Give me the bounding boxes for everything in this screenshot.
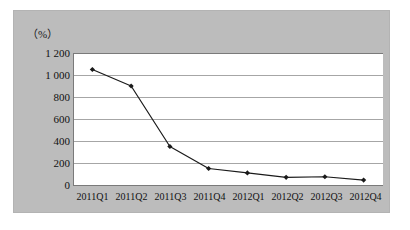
x-axis-tick: 2011Q1 (73, 189, 112, 207)
y-axis-tick: 1 200 (20, 47, 70, 60)
y-axis-tick: 600 (20, 113, 70, 126)
y-axis-tick: 200 (20, 157, 70, 170)
x-axis-tick: 2011Q2 (112, 189, 151, 207)
x-axis-tick: 2012Q1 (229, 189, 268, 207)
y-axis-tick-labels: 02004006008001 0001 200 (20, 46, 70, 192)
chart-figure: （%） 02004006008001 0001 200 2011Q12011Q2… (0, 0, 410, 230)
y-axis-tick: 0 (20, 179, 70, 192)
x-axis-tick: 2012Q2 (268, 189, 307, 207)
x-axis-tick-labels: 2011Q12011Q22011Q32011Q42012Q12012Q22012… (73, 189, 385, 207)
x-axis-tick: 2012Q4 (346, 189, 385, 207)
plot-area (73, 53, 383, 185)
y-axis-tick: 400 (20, 135, 70, 148)
y-axis-tick: 1 000 (20, 69, 70, 82)
x-axis-tick: 2011Q4 (190, 189, 229, 207)
y-axis-unit-label: （%） (27, 25, 58, 41)
x-axis-tick: 2012Q3 (307, 189, 346, 207)
x-axis-tick: 2011Q3 (151, 189, 190, 207)
y-axis-tick: 800 (20, 91, 70, 104)
